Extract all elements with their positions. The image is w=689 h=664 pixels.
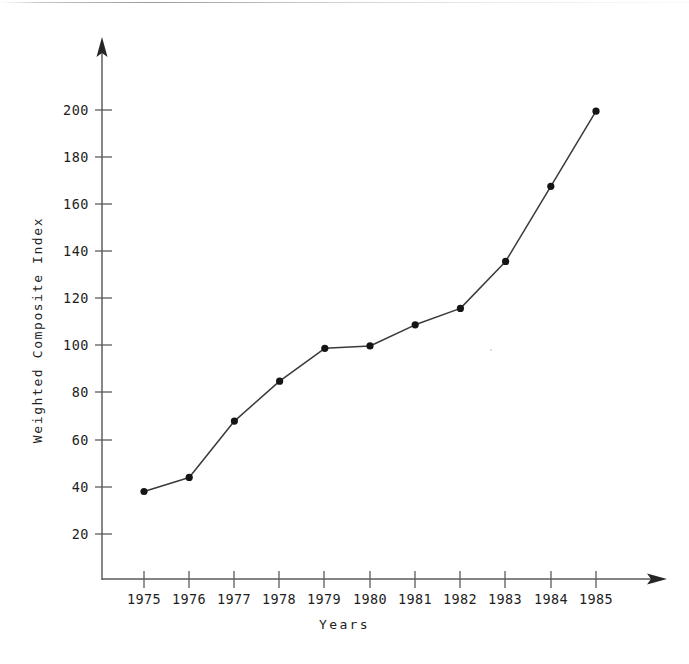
data-point-marker [140, 488, 147, 495]
chart-figure: 20 40 60 80 100 120 140 160 180 200 [0, 0, 689, 664]
data-point-marker [186, 474, 193, 481]
x-tick-label: 1976 [172, 591, 206, 607]
x-tick-label: 1984 [534, 591, 568, 607]
x-tick-label: 1981 [398, 591, 432, 607]
data-point-marker [502, 258, 509, 265]
y-tick-label: 80 [72, 384, 89, 400]
x-tick-label: 1982 [443, 591, 477, 607]
x-tick-labels: 1975 1976 1977 1978 1979 1980 1981 1982 … [127, 591, 613, 607]
x-tick-label: 1985 [579, 591, 613, 607]
x-tick-label: 1977 [217, 591, 251, 607]
scan-speck-artifact [490, 349, 492, 351]
y-tick-group [95, 110, 112, 534]
data-point-marker [231, 417, 238, 424]
y-tick-label: 40 [72, 479, 89, 495]
x-tick-label: 1978 [262, 591, 296, 607]
data-point-marker [592, 108, 599, 115]
y-axis-label-container: Weighted Composite Index [22, 180, 52, 480]
y-tick-label: 140 [63, 243, 89, 259]
y-tick-label: 180 [63, 149, 89, 165]
y-tick-label: 200 [63, 102, 89, 118]
y-axis-label: Weighted Composite Index [30, 217, 45, 443]
data-point-marker [366, 342, 373, 349]
y-tick-label: 160 [63, 196, 89, 212]
line-chart-plot: 20 40 60 80 100 120 140 160 180 200 [0, 0, 689, 664]
data-point-marker [276, 378, 283, 385]
y-tick-label: 20 [72, 526, 89, 542]
data-point-marker [547, 183, 554, 190]
x-axis-label: Years [0, 617, 689, 632]
data-series-line [144, 111, 596, 491]
y-tick-label: 60 [72, 432, 89, 448]
data-point-marker [457, 305, 464, 312]
data-point-markers [140, 108, 599, 496]
x-tick-label: 1983 [488, 591, 522, 607]
x-tick-label: 1980 [353, 591, 387, 607]
data-point-marker [321, 345, 328, 352]
y-tick-label: 120 [63, 290, 89, 306]
data-point-marker [412, 321, 419, 328]
y-tick-labels: 20 40 60 80 100 120 140 160 180 200 [63, 102, 89, 542]
x-tick-label: 1975 [127, 591, 161, 607]
x-tick-label: 1979 [307, 591, 341, 607]
y-tick-label: 100 [63, 337, 89, 353]
